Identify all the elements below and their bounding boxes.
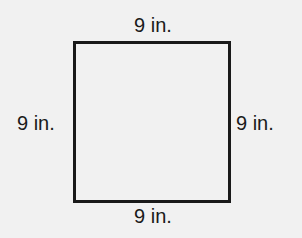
square-shape [73, 41, 231, 203]
top-side-label: 9 in. [134, 14, 172, 36]
left-side-label: 9 in. [17, 112, 55, 134]
bottom-side-label: 9 in. [134, 205, 172, 227]
right-side-label: 9 in. [236, 112, 274, 134]
